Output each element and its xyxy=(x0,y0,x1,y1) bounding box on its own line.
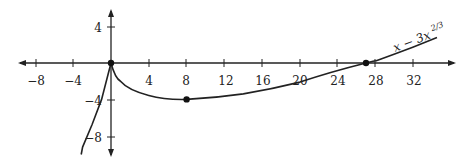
x-tick-label: 32 xyxy=(406,74,421,88)
x-axis xyxy=(18,60,456,66)
y-tick-labels: 4 −4 −8 xyxy=(84,21,102,145)
point-minimum xyxy=(183,96,189,102)
point-root-27 xyxy=(363,60,369,66)
y-axis-up-arrow-icon xyxy=(108,9,114,17)
x-tick-label: 12 xyxy=(218,74,233,88)
point-origin xyxy=(108,60,114,66)
x-tick-label: 28 xyxy=(368,74,383,88)
y-tick-label: 4 xyxy=(94,21,102,35)
x-tick-labels: −8 −4 4 8 12 16 20 24 28 32 xyxy=(27,74,421,88)
function-label: x − 3x 2/3 xyxy=(390,20,447,55)
x-axis-right-arrow-icon xyxy=(448,60,456,66)
function-curve xyxy=(81,38,437,155)
y-axis-down-arrow-icon xyxy=(108,149,114,157)
function-plot: −8 −4 4 8 12 16 20 24 28 32 4 −4 −8 x − … xyxy=(0,0,467,164)
x-tick-label: −8 xyxy=(27,74,45,88)
x-tick-label: 24 xyxy=(330,74,346,88)
x-tick-label: 16 xyxy=(255,74,270,88)
function-label-exponent: 2/3 xyxy=(429,20,445,33)
x-axis-left-arrow-icon xyxy=(18,60,26,66)
x-tick-label: 8 xyxy=(182,74,190,88)
x-tick-label: −4 xyxy=(64,74,82,88)
y-axis xyxy=(108,9,114,157)
function-label-base: x − 3x xyxy=(391,28,433,55)
x-tick-label: 4 xyxy=(145,74,153,88)
